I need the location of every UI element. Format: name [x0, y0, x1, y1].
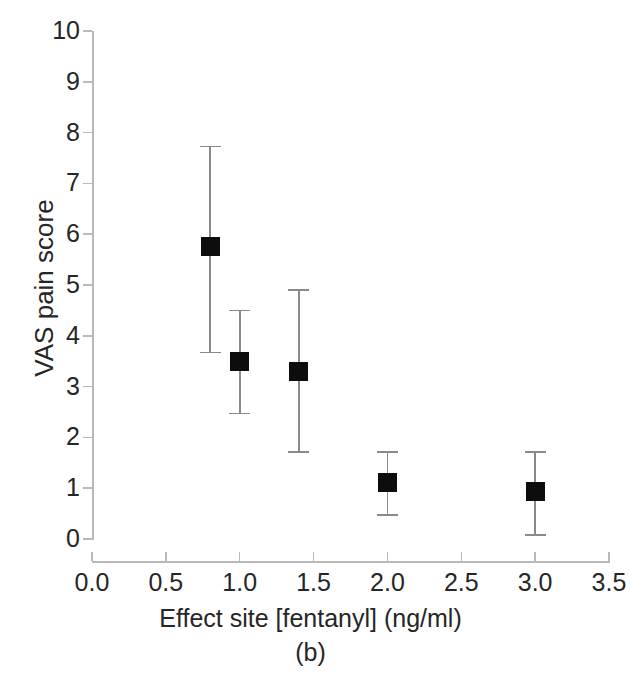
- x-tick-label: 0.0: [52, 570, 132, 595]
- y-tick-mark: [83, 538, 92, 540]
- x-tick-mark: [91, 552, 93, 561]
- data-point-marker[interactable]: [201, 237, 220, 256]
- y-tick-label: 1: [34, 475, 80, 500]
- error-bar-cap-upper: [377, 451, 398, 453]
- x-tick-mark: [239, 552, 241, 561]
- x-tick-mark: [534, 552, 536, 561]
- x-tick-mark: [608, 552, 610, 561]
- x-tick-label: 0.5: [126, 570, 206, 595]
- y-tick-label: 10: [34, 18, 80, 43]
- error-bar-cap-upper: [525, 451, 546, 453]
- y-tick-mark: [83, 335, 92, 337]
- x-tick-label: 2.5: [421, 570, 501, 595]
- x-axis-line: [92, 561, 610, 563]
- y-tick-label: 2: [34, 424, 80, 449]
- x-tick-label: 3.0: [495, 570, 575, 595]
- error-bar-cap-lower: [229, 413, 250, 415]
- x-tick-label: 3.5: [569, 570, 630, 595]
- error-bar-cap-lower: [525, 534, 546, 536]
- x-axis-title: Effect site [fentanyl] (ng/ml): [0, 606, 621, 631]
- y-tick-mark: [83, 487, 92, 489]
- error-bar-cap-upper: [200, 146, 221, 148]
- y-tick-mark: [83, 386, 92, 388]
- error-bar-cap-lower: [288, 451, 309, 453]
- x-tick-mark: [165, 552, 167, 561]
- y-tick-mark: [83, 132, 92, 134]
- y-axis-title: VAS pain score: [31, 158, 57, 418]
- data-point-marker[interactable]: [378, 473, 397, 492]
- error-bar-cap-upper: [229, 310, 250, 312]
- x-tick-mark: [313, 552, 315, 561]
- x-tick-label: 1.0: [200, 570, 280, 595]
- y-tick-label: 0: [34, 526, 80, 551]
- x-tick-label: 1.5: [274, 570, 354, 595]
- data-point-marker[interactable]: [230, 352, 249, 371]
- data-point-marker[interactable]: [526, 482, 545, 501]
- data-point-marker[interactable]: [289, 362, 308, 381]
- y-tick-label: 9: [34, 69, 80, 94]
- error-bar-cap-lower: [200, 352, 221, 354]
- x-tick-mark: [387, 552, 389, 561]
- y-axis-line: [92, 31, 94, 540]
- error-bar-cap-lower: [377, 514, 398, 516]
- x-tick-label: 2.0: [347, 570, 427, 595]
- y-tick-mark: [83, 30, 92, 32]
- y-tick-mark: [83, 284, 92, 286]
- y-tick-mark: [83, 437, 92, 439]
- y-tick-mark: [83, 183, 92, 185]
- y-tick-mark: [83, 81, 92, 83]
- panel-caption: (b): [0, 640, 621, 665]
- error-bar-cap-upper: [288, 289, 309, 291]
- x-tick-mark: [461, 552, 463, 561]
- y-tick-label: 8: [34, 120, 80, 145]
- y-tick-mark: [83, 233, 92, 235]
